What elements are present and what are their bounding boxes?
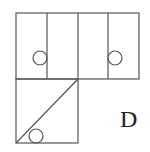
circle-face-1 — [33, 51, 47, 65]
circle-face-4 — [108, 51, 122, 65]
bottom-diagonal — [16, 79, 78, 143]
circle-bottom-face — [29, 129, 43, 143]
option-label: D — [120, 107, 137, 131]
